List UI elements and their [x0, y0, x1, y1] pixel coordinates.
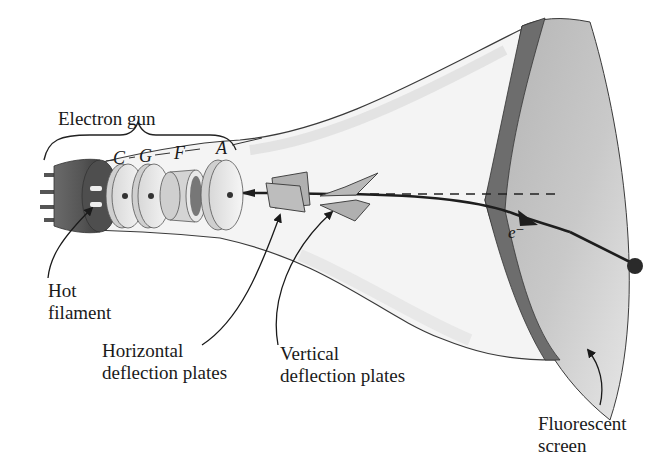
- anode-disk: [201, 160, 243, 230]
- focus-cylinder: [160, 170, 206, 222]
- horizontal-plates-label-line1: Horizontal: [102, 340, 183, 361]
- electron-gun-label: Electron gun: [58, 108, 156, 129]
- crt-diagram: Electron gun C G F A Hot filament Horizo…: [0, 0, 661, 469]
- hot-filament-label-line1: Hot: [48, 280, 77, 301]
- electron-symbol-label: e⁻: [508, 222, 525, 243]
- vertical-plates-label-line1: Vertical: [280, 343, 339, 364]
- hot-filament-label-line2: filament: [48, 302, 111, 323]
- horizontal-deflection-plates: [266, 172, 310, 212]
- horizontal-plates-label-line2: deflection plates: [102, 362, 227, 383]
- fluorescent-screen-label-line2: screen: [538, 435, 587, 456]
- anode-label: A: [216, 138, 227, 159]
- focus-label: F: [174, 143, 185, 164]
- cathode-label: C: [113, 148, 125, 169]
- vertical-plates-label-line2: deflection plates: [280, 365, 405, 386]
- crt-illustration: [0, 0, 661, 469]
- fluorescent-screen-label-line1: Fluorescent: [538, 413, 627, 434]
- grid-label: G: [139, 146, 152, 167]
- beam-spot: [627, 258, 643, 274]
